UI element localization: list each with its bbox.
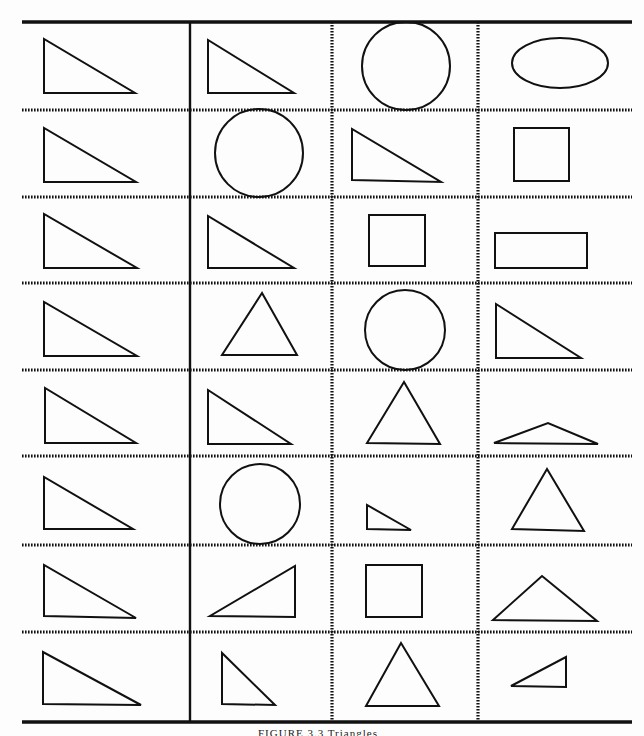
right-triangle-icon bbox=[208, 216, 294, 268]
right-triangle-icon bbox=[222, 653, 275, 705]
circle-icon bbox=[215, 109, 303, 197]
equilateral-triangle-icon bbox=[367, 382, 440, 444]
circle-icon bbox=[362, 22, 450, 110]
circle-icon bbox=[365, 290, 445, 370]
obtuse-triangle-icon bbox=[494, 423, 598, 444]
right-triangle-icon bbox=[44, 302, 137, 356]
right-triangle-mirrored-icon bbox=[511, 657, 566, 687]
right-triangle-mirrored-icon bbox=[210, 566, 295, 617]
ellipse-icon bbox=[512, 38, 608, 88]
right-triangle-icon bbox=[44, 565, 136, 618]
right-triangle-icon bbox=[44, 128, 136, 182]
right-triangle-icon bbox=[208, 40, 294, 93]
rectangle-icon bbox=[514, 128, 569, 181]
shape-matching-figure bbox=[0, 0, 644, 736]
right-triangle-icon bbox=[43, 652, 141, 705]
equilateral-triangle-icon bbox=[512, 469, 584, 531]
right-triangle-icon bbox=[44, 477, 133, 529]
right-triangle-icon bbox=[44, 214, 137, 268]
rectangle-icon bbox=[369, 215, 425, 266]
equilateral-triangle-icon bbox=[222, 293, 297, 355]
circle-icon bbox=[220, 464, 300, 544]
equilateral-triangle-icon bbox=[366, 643, 439, 706]
figure-caption: FIGURE 3.3 Triangles bbox=[258, 728, 378, 736]
right-triangle-icon bbox=[208, 390, 291, 444]
obtuse-triangle-icon bbox=[493, 576, 597, 621]
shape-cells bbox=[43, 22, 608, 706]
right-triangle-icon bbox=[45, 388, 136, 443]
right-triangle-icon bbox=[367, 505, 411, 530]
right-triangle-icon bbox=[44, 39, 135, 93]
rectangle-icon bbox=[366, 565, 422, 617]
rectangle-icon bbox=[495, 233, 587, 268]
right-triangle-icon bbox=[352, 129, 441, 182]
right-triangle-icon bbox=[496, 304, 581, 358]
